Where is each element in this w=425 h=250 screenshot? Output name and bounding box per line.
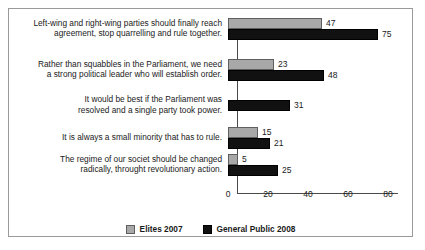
x-tick-80: 80 [383, 189, 392, 199]
legend-swatch-icon [126, 225, 135, 234]
legend-label: Elites 2007 [140, 224, 183, 234]
x-tick-40: 40 [303, 189, 312, 199]
legend-item-public[interactable]: General Public 2008 [203, 224, 296, 234]
chart-legend: Elites 2007General Public 2008 [9, 224, 412, 234]
x-tick-list: 020406080 [0, 0, 425, 250]
legend-label: General Public 2008 [217, 224, 296, 234]
legend-item-elites[interactable]: Elites 2007 [126, 224, 183, 234]
x-tick-60: 60 [343, 189, 352, 199]
chart-frame: Left-wing and right-wing parties should … [8, 8, 413, 237]
x-tick-0: 0 [226, 189, 231, 199]
x-tick-20: 20 [263, 189, 272, 199]
legend-swatch-icon [203, 225, 212, 234]
chart-figure: Left-wing and right-wing parties should … [0, 0, 425, 250]
